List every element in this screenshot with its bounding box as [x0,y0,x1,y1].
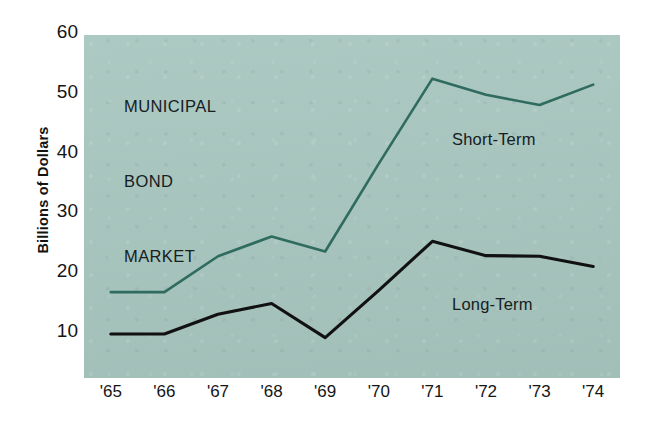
line-short-term [111,79,593,292]
series-label-long-term: Long-Term [452,295,533,314]
series-label-short-term: Short-Term [452,130,536,149]
municipal-bond-market-chart: MUNICIPAL BOND MARKET Billions of Dollar… [0,0,653,426]
line-long-term [111,241,593,337]
series-lines [0,0,653,426]
